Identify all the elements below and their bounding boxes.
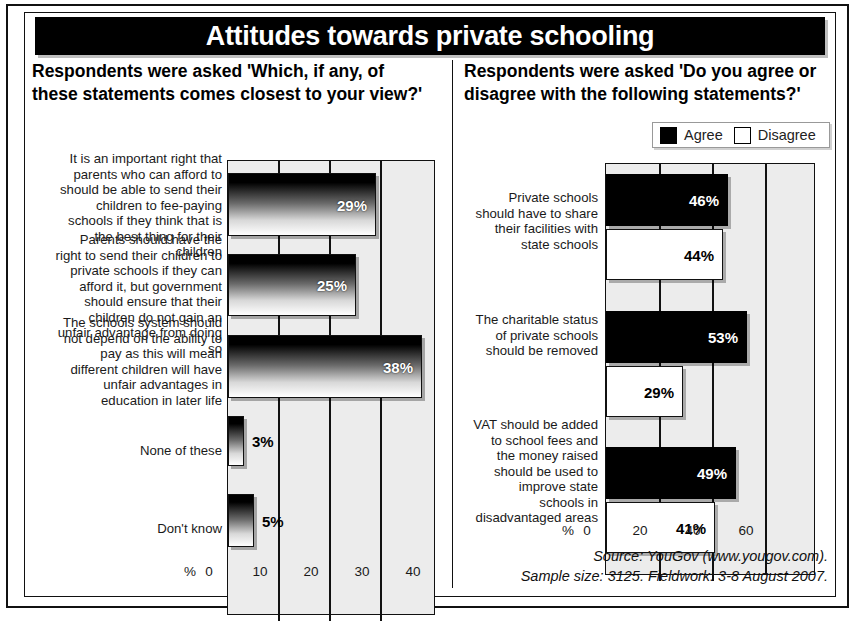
right-axis-tick-0: 0 [574, 523, 600, 538]
left-axis-tick-10: 10 [247, 564, 273, 579]
legend-agree-label: Agree [684, 127, 723, 143]
page-title: Attitudes towards private schooling [206, 21, 655, 52]
legend-disagree-swatch-icon [734, 127, 751, 144]
left-bar-1: 29% [228, 173, 376, 236]
right-bar-agree-1: 46% [606, 174, 728, 226]
right-category-label-3: VAT should be added to school fees and t… [472, 417, 598, 526]
right-axis-tick-60: 60 [733, 523, 759, 538]
right-axis-percent-symbol: % [562, 523, 574, 538]
left-bar-3-value: 38% [383, 358, 413, 375]
right-bar-agree-3-value: 49% [697, 465, 727, 482]
right-axis-tick-20: 20 [627, 523, 653, 538]
right-bar-agree-2: 53% [606, 311, 747, 363]
right-category-label-1: Private schools should have to share the… [472, 190, 598, 252]
left-bar-4-value: 3% [252, 433, 274, 450]
legend-disagree-label: Disagree [758, 127, 816, 143]
right-bar-agree-1-value: 46% [689, 192, 719, 209]
left-axis-tick-30: 30 [349, 564, 375, 579]
left-bar-4: 3% [228, 416, 244, 466]
right-bar-disagree-2: 29% [606, 366, 683, 417]
left-bar-3: 38% [228, 335, 422, 398]
left-bar-5: 5% [228, 494, 254, 547]
chart-title-bar: Attitudes towards private schooling [35, 17, 825, 55]
right-category-label-2: The charitable status of private schools… [472, 312, 598, 359]
left-category-label-5: Don't know [54, 521, 222, 537]
right-bar-agree-2-value: 53% [708, 329, 738, 346]
source-line-2: Sample size: 3125. Fieldwork: 3-8 August… [521, 567, 828, 586]
left-plot-area: 29% 25% 38% 3% 5% [227, 160, 435, 615]
legend: Agree Disagree [652, 122, 830, 148]
right-panel: Respondents were asked 'Do you agree or … [464, 60, 836, 590]
right-panel-heading: Respondents were asked 'Do you agree or … [464, 60, 824, 106]
right-plot-area: 46% 44% 53% 29% 49% 41% [605, 163, 815, 575]
left-bar-5-value: 5% [262, 512, 284, 529]
legend-agree-swatch-icon [660, 127, 677, 144]
left-category-label-3: The schools system should not depend on … [54, 315, 222, 408]
left-panel-heading: Respondents were asked 'Which, if any, o… [32, 60, 424, 106]
right-bar-disagree-2-value: 29% [644, 383, 674, 400]
right-bar-disagree-1-value: 44% [684, 246, 714, 263]
left-tick-10 [278, 614, 280, 621]
left-category-label-4: None of these [54, 443, 222, 459]
left-tick-20 [329, 614, 331, 621]
left-axis-tick-0: 0 [196, 564, 222, 579]
left-bar-2: 25% [228, 254, 356, 316]
left-tick-30 [380, 614, 382, 621]
source-line-1: Source: YouGov (www.yougov.com). [521, 547, 828, 566]
right-bar-agree-3: 49% [606, 447, 736, 499]
panel-divider [452, 60, 453, 588]
left-axis-tick-20: 20 [298, 564, 324, 579]
left-panel: Respondents were asked 'Which, if any, o… [32, 60, 442, 590]
right-gridline-60 [765, 164, 767, 574]
left-bar-1-value: 29% [337, 196, 367, 213]
left-axis-tick-40: 40 [400, 564, 426, 579]
left-axis-percent-symbol: % [184, 564, 196, 579]
source-note: Source: YouGov (www.yougov.com). Sample … [521, 547, 828, 586]
left-bar-2-value: 25% [317, 277, 347, 294]
right-axis-tick-40: 40 [680, 523, 706, 538]
right-bar-disagree-1: 44% [606, 229, 723, 280]
